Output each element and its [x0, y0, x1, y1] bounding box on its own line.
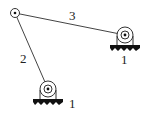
joint-top	[11, 9, 20, 18]
label-ground-left: 1	[69, 96, 76, 111]
support-right	[110, 27, 140, 51]
label-ground-right: 1	[121, 52, 128, 67]
support-left	[33, 81, 63, 105]
linkage-diagram: 3 2 1 1	[0, 0, 148, 119]
label-link-3: 3	[69, 8, 76, 23]
label-link-2: 2	[20, 51, 27, 66]
